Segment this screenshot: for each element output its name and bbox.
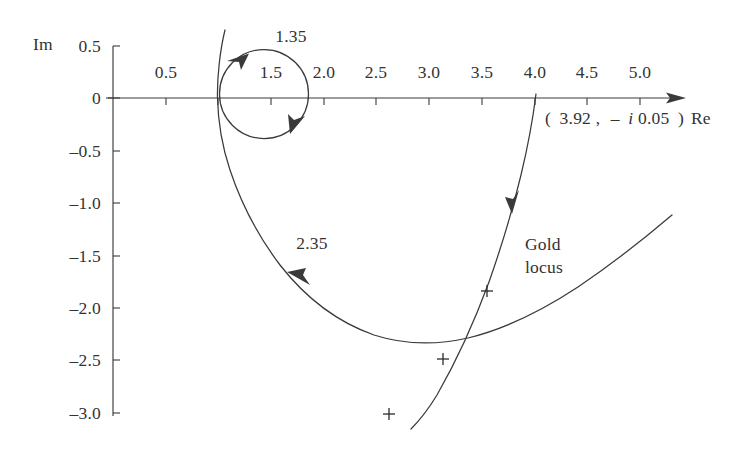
annot-imaginary-unit: i xyxy=(628,108,633,128)
gold-locus-direction-arrow-icon xyxy=(505,190,519,214)
annot-close-paren: ) xyxy=(678,108,684,128)
loop-frequency-label: 1.35 xyxy=(275,26,306,46)
x-tick-label: 5.0 xyxy=(629,62,652,82)
imaginary-axis-label: Im xyxy=(33,34,53,54)
nyquist-gold-locus-figure: Im Re 0.5 0 –0.5 –1.0 –1.5 –2.0 –2.5 –3.… xyxy=(0,0,733,454)
svg-text:( 3.92 ,: ( 3.92 , – i 0.05 ) xyxy=(545,108,684,128)
plus-marker xyxy=(383,408,395,420)
gold-locus-label-line1: Gold xyxy=(525,234,561,254)
x-tick-label: 4.5 xyxy=(576,62,599,82)
real-axis-label: Re xyxy=(691,108,711,128)
loop-direction-arrow-bottom-icon xyxy=(288,114,305,134)
y-tick-label: –1.5 xyxy=(69,246,101,266)
gold-locus-label-line2: locus xyxy=(525,257,563,277)
main-locus-direction-arrow-icon xyxy=(287,268,310,285)
y-tick-label: –1.0 xyxy=(69,193,101,213)
annot-minus-sign: – xyxy=(610,108,620,128)
y-tick-label: 0 xyxy=(92,88,101,108)
x-tick-label: 2.0 xyxy=(313,62,336,82)
y-tick-label: –3.0 xyxy=(69,403,101,423)
main-nyquist-locus: 2.35 xyxy=(217,30,672,343)
x-tick-labels: 0.5 1.5 2.0 2.5 3.0 3.5 4.0 4.5 5.0 xyxy=(155,62,652,82)
y-tick-labels: 0.5 0 –0.5 –1.0 –1.5 –2.0 –2.5 –3.0 xyxy=(69,36,101,423)
plus-marker xyxy=(437,353,449,365)
small-loop-locus: 1.35 xyxy=(220,26,309,139)
gold-locus: Gold locus xyxy=(383,94,563,429)
x-tick-marks xyxy=(166,98,640,105)
annot-imag-value: 0.05 xyxy=(638,108,669,128)
annot-separator: , xyxy=(596,108,601,128)
x-tick-label: 4.0 xyxy=(524,62,547,82)
axes-group xyxy=(106,46,686,416)
main-locus-path xyxy=(217,30,672,343)
annot-real-value: 3.92 xyxy=(560,108,591,128)
x-tick-label: 3.5 xyxy=(471,62,494,82)
y-tick-label: –2.5 xyxy=(69,350,101,370)
intersection-point-annotation: ( 3.92 , – i 0.05 ) xyxy=(545,108,684,128)
annot-open-paren: ( xyxy=(545,108,551,128)
gold-locus-markers xyxy=(383,285,493,420)
gold-locus-path xyxy=(411,94,536,429)
x-tick-label: 0.5 xyxy=(155,62,178,82)
plus-marker xyxy=(481,285,493,297)
y-tick-label: 0.5 xyxy=(79,36,102,56)
sweep-frequency-label: 2.35 xyxy=(296,233,327,253)
plot-canvas: Im Re 0.5 0 –0.5 –1.0 –1.5 –2.0 –2.5 –3.… xyxy=(0,0,733,454)
x-tick-label: 2.5 xyxy=(365,62,388,82)
x-tick-label: 1.5 xyxy=(260,62,283,82)
x-tick-label: 3.0 xyxy=(418,62,441,82)
loop-direction-arrow-top-icon xyxy=(227,54,249,71)
y-tick-label: –2.0 xyxy=(69,298,101,318)
y-tick-label: –0.5 xyxy=(69,141,101,161)
